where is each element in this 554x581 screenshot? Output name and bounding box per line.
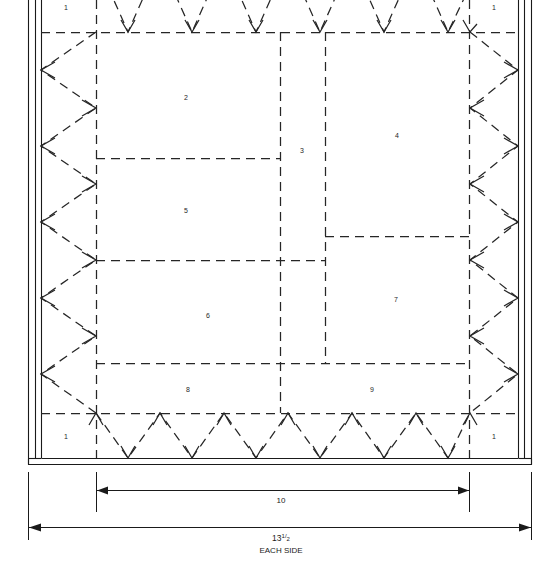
region-label-4: 4	[395, 132, 399, 139]
dim-135-sublabel: EACH SIDE	[259, 546, 302, 555]
region-label-6: 6	[206, 312, 210, 319]
framing-plan-diagram: 1 1 2 3 4 5 6 7 8 9 1 1 10	[0, 0, 554, 581]
region-label-8: 8	[186, 386, 190, 393]
dim-135-whole: 13	[272, 533, 282, 543]
diagram-canvas: 1 1 2 3 4 5 6 7 8 9 1 1 10	[0, 0, 554, 581]
region-label-1-bottom-right: 1	[492, 433, 496, 440]
dim-10-label: 10	[277, 496, 286, 505]
region-label-1-top-left: 1	[64, 4, 68, 11]
region-label-3: 3	[300, 147, 304, 154]
region-label-9: 9	[370, 386, 374, 393]
region-label-7: 7	[394, 296, 398, 303]
region-label-5: 5	[184, 207, 188, 214]
region-label-2: 2	[184, 94, 188, 101]
region-label-1-top-right: 1	[492, 4, 496, 11]
region-label-1-bottom-left: 1	[64, 433, 68, 440]
canvas-background	[0, 0, 554, 581]
